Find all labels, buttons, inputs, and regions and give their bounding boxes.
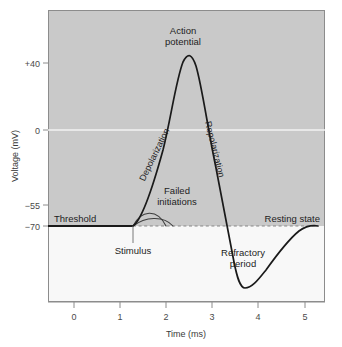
annotation-failed-initiations-line2: initiations (157, 196, 197, 207)
y-tick-label-neg55: −55 (25, 201, 40, 211)
annotation-action-potential-line2: potential (165, 36, 201, 47)
annotation-stimulus: Stimulus (115, 245, 152, 256)
annotation-refractory-period-line1: Refractory (221, 247, 265, 258)
y-tick-label-neg70: −70 (25, 222, 40, 232)
y-tick-label-40: +40 (25, 59, 40, 69)
y-axis-title: Voltage (mV) (10, 130, 20, 182)
annotation-threshold: Threshold (54, 213, 96, 224)
action-potential-figure: +40 0 −55 −70 0 1 2 3 4 5 Time (ms) Volt… (0, 0, 342, 347)
x-tick-label-4: 4 (255, 312, 260, 322)
annotation-refractory-period-line2: period (230, 258, 256, 269)
annotation-action-potential-line1: Action (170, 25, 196, 36)
plot-background-lower (48, 226, 325, 302)
x-tick-label-5: 5 (302, 312, 307, 322)
y-tick-label-0: 0 (35, 126, 40, 136)
chart-svg: +40 0 −55 −70 0 1 2 3 4 5 Time (ms) Volt… (0, 0, 342, 347)
x-axis-title: Time (ms) (166, 329, 206, 339)
annotation-failed-initiations-line1: Failed (164, 185, 190, 196)
annotation-resting-state: Resting state (265, 213, 320, 224)
x-tick-label-2: 2 (163, 312, 168, 322)
x-tick-label-3: 3 (209, 312, 214, 322)
x-tick-label-1: 1 (117, 312, 122, 322)
x-tick-label-0: 0 (71, 312, 76, 322)
